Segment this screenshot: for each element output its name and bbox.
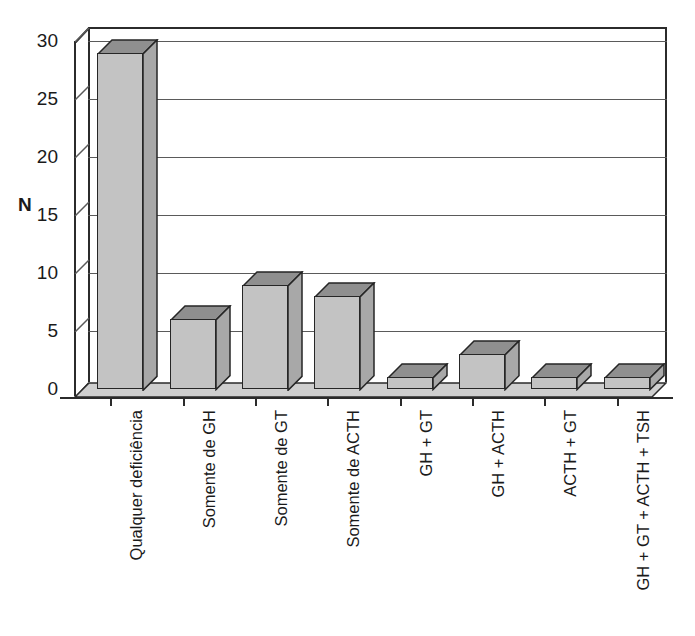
x-label-7: ACTH + GT xyxy=(562,410,579,636)
x-tick-7 xyxy=(544,397,546,406)
x-label-4: Somente de ACTH xyxy=(345,410,362,636)
y-tick-label-15: 15 xyxy=(16,205,58,224)
gridline-15 xyxy=(88,215,667,216)
gridline-depth-20 xyxy=(74,143,90,158)
gridline-20 xyxy=(88,157,667,158)
y-tick-label-0: 0 xyxy=(16,379,58,398)
y-tick-label-10: 10 xyxy=(16,263,58,282)
gridline-depth-30 xyxy=(74,27,90,42)
x-tick-4 xyxy=(327,397,329,406)
y-tick-label-20: 20 xyxy=(16,147,58,166)
x-tick-1 xyxy=(110,397,112,406)
gridline-30 xyxy=(88,41,667,42)
y-tick-label-25: 25 xyxy=(16,89,58,108)
y-tick-label-30: 30 xyxy=(16,31,58,50)
gridline-10 xyxy=(88,273,667,274)
gridline-5 xyxy=(88,331,667,332)
x-axis-line xyxy=(60,397,673,399)
x-tick-3 xyxy=(255,397,257,406)
bar-chart: N 051015202530 Qualquer deficiênciaSomen… xyxy=(0,0,695,636)
x-label-1: Qualquer deficiência xyxy=(128,410,145,636)
gridline-depth-5 xyxy=(74,317,90,332)
x-label-6: GH + ACTH xyxy=(490,410,507,636)
x-tick-2 xyxy=(183,397,185,406)
plot-floor xyxy=(74,382,667,398)
x-label-8: GH + GT + ACTH + TSH xyxy=(635,410,652,636)
x-label-3: Somente de GT xyxy=(273,410,290,636)
x-tick-5 xyxy=(400,397,402,406)
plot-back-wall xyxy=(88,27,667,382)
gridline-depth-10 xyxy=(74,259,90,274)
x-label-2: Somente de GH xyxy=(201,410,218,636)
x-tick-6 xyxy=(472,397,474,406)
gridline-depth-25 xyxy=(74,85,90,100)
x-tick-8 xyxy=(617,397,619,406)
y-tick-label-5: 5 xyxy=(16,321,58,340)
x-label-5: GH + GT xyxy=(418,410,435,636)
gridline-depth-15 xyxy=(74,201,90,216)
gridline-25 xyxy=(88,99,667,100)
